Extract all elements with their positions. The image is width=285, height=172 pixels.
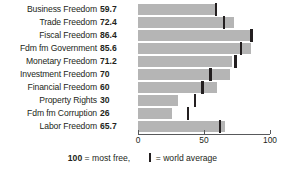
value-label: 70 [100, 68, 126, 81]
axis-tick-label: 50 [199, 135, 208, 145]
bar [138, 108, 172, 119]
bar [138, 43, 251, 54]
world-average-tick [234, 55, 236, 68]
chart-row: Fdm fm Government85.6 [0, 42, 285, 55]
chart-row: Financial Freedom60 [0, 81, 285, 94]
category-label: Monetary Freedom [0, 55, 97, 68]
plot-area [138, 68, 270, 81]
chart-row: Investment Freedom70 [0, 68, 285, 81]
category-label: Fdm fm Government [0, 42, 97, 55]
world-average-tick [240, 42, 242, 55]
value-label: 26 [100, 107, 126, 120]
freedom-index-bar-chart: Business Freedom59.7Trade Freedom72.4Fis… [0, 0, 285, 172]
chart-row: Property Rights30 [0, 94, 285, 107]
chart-row: Fdm fm Corruption26 [0, 107, 285, 120]
plot-area [138, 94, 270, 107]
axis-tick [138, 130, 139, 134]
axis-tick [270, 130, 271, 134]
world-average-tick [215, 3, 217, 16]
plot-area [138, 3, 270, 16]
value-label: 72.4 [100, 16, 126, 29]
plot-area [138, 55, 270, 68]
world-average-tick [209, 68, 211, 81]
value-label: 30 [100, 94, 126, 107]
category-label: Fdm fm Corruption [0, 107, 97, 120]
category-label: Business Freedom [0, 3, 97, 16]
category-label: Fiscal Freedom [0, 29, 97, 42]
world-average-tick [250, 29, 252, 42]
bar [138, 95, 178, 106]
legend-most-free-value: 100 [68, 153, 82, 163]
value-label: 86.4 [100, 29, 126, 42]
plot-area [138, 29, 270, 42]
value-label: 59.7 [100, 3, 126, 16]
category-label: Financial Freedom [0, 81, 97, 94]
category-label: Trade Freedom [0, 16, 97, 29]
category-label: Property Rights [0, 94, 97, 107]
world-average-tick-icon [149, 153, 151, 162]
bar [138, 121, 225, 132]
bar [138, 4, 217, 15]
world-average-tick [201, 81, 203, 94]
chart-row: Labor Freedom65.7 [0, 120, 285, 133]
bar [138, 30, 252, 41]
world-average-tick [187, 107, 189, 120]
world-average-tick [223, 16, 225, 29]
bar [138, 56, 232, 67]
legend-most-free-text: = most free, [82, 153, 130, 163]
value-label: 65.7 [100, 120, 126, 133]
category-label: Investment Freedom [0, 68, 97, 81]
bar [138, 82, 217, 93]
axis-tick [204, 130, 205, 134]
plot-area [138, 42, 270, 55]
bar [138, 69, 230, 80]
value-label: 71.2 [100, 55, 126, 68]
value-label: 60 [100, 81, 126, 94]
value-label: 85.6 [100, 42, 126, 55]
world-average-tick [194, 94, 196, 107]
legend-world-average-text: = world average [153, 153, 217, 163]
chart-row: Trade Freedom72.4 [0, 16, 285, 29]
plot-area [138, 81, 270, 94]
category-label: Labor Freedom [0, 120, 97, 133]
axis-tick-label: 100 [263, 135, 277, 145]
bar [138, 17, 234, 28]
world-average-tick [219, 120, 221, 133]
chart-row: Monetary Freedom71.2 [0, 55, 285, 68]
axis-tick-label: 0 [136, 135, 141, 145]
plot-area [138, 16, 270, 29]
chart-row: Fiscal Freedom86.4 [0, 29, 285, 42]
plot-area [138, 107, 270, 120]
chart-legend: 100 = most free, = world average [0, 150, 285, 166]
chart-row: Business Freedom59.7 [0, 3, 285, 16]
